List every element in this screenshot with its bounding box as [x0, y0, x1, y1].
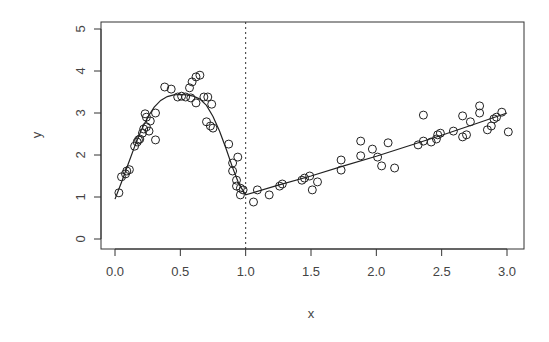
- y-tick-label: 4: [73, 67, 88, 74]
- data-point: [152, 136, 160, 144]
- data-point: [208, 100, 216, 108]
- data-point: [253, 186, 261, 194]
- x-tick-label: 2.5: [433, 264, 451, 279]
- data-point: [357, 137, 365, 145]
- y-tick-label: 0: [73, 235, 88, 242]
- x-tick-label: 1.0: [237, 264, 255, 279]
- data-point: [225, 140, 233, 148]
- data-point: [209, 124, 217, 132]
- data-points: [115, 71, 512, 206]
- x-tick-label: 3.0: [498, 264, 516, 279]
- data-point: [504, 128, 512, 136]
- data-point: [192, 99, 200, 107]
- y-tick-label: 3: [73, 109, 88, 116]
- data-point: [314, 178, 322, 186]
- data-point: [384, 139, 392, 147]
- data-point: [419, 111, 427, 119]
- data-point: [466, 118, 474, 126]
- x-axis: 0.00.51.01.52.02.53.0: [106, 249, 516, 279]
- data-point: [357, 152, 365, 160]
- data-point: [308, 186, 316, 194]
- y-axis-label: y: [29, 131, 44, 138]
- data-point: [414, 141, 422, 149]
- x-axis-label: x: [308, 306, 315, 321]
- y-tick-label: 2: [73, 151, 88, 158]
- y-tick-label: 5: [73, 25, 88, 32]
- fit-curve: [115, 95, 507, 200]
- x-tick-label: 0.0: [106, 264, 124, 279]
- x-tick-label: 1.5: [302, 264, 320, 279]
- data-point: [391, 164, 399, 172]
- x-tick-label: 0.5: [171, 264, 189, 279]
- data-point: [378, 162, 386, 170]
- data-point: [152, 109, 160, 117]
- scatter-plot: 012345 0.00.51.01.52.02.53.0 x y: [0, 0, 549, 342]
- data-point: [459, 112, 467, 120]
- y-tick-label: 1: [73, 193, 88, 200]
- data-point: [368, 145, 376, 153]
- data-point: [265, 191, 273, 199]
- x-tick-label: 2.0: [367, 264, 385, 279]
- data-point: [337, 156, 345, 164]
- plot-frame: [101, 22, 524, 249]
- data-point: [250, 198, 258, 206]
- y-axis: 012345: [73, 25, 102, 242]
- data-point: [298, 176, 306, 184]
